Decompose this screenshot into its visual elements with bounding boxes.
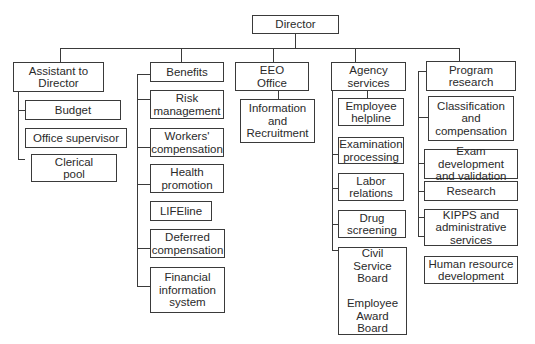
budget-box: Budget — [25, 100, 121, 120]
benefits-box: Benefits — [150, 62, 224, 82]
connector — [137, 286, 151, 287]
connector — [295, 33, 296, 49]
connector — [18, 92, 19, 160]
kipps-box: KIPPS and administrative services — [424, 209, 518, 246]
information-recruitment-box: Information and Recruitment — [240, 99, 315, 143]
assistant-director-box: Assistant to Director — [13, 62, 104, 92]
program-research-box: Program research — [426, 61, 516, 91]
connector — [137, 74, 151, 75]
employee-helpline-box: Employee helpline — [338, 98, 404, 126]
connector — [18, 159, 25, 160]
connector — [332, 89, 333, 250]
labor-relations-box: Labor relations — [338, 173, 404, 201]
deferred-compensation-box: Deferred compensation — [150, 229, 225, 258]
agency-services-box: Agency services — [331, 62, 406, 91]
connector — [60, 48, 459, 49]
connector — [181, 48, 182, 62]
connector — [355, 48, 356, 62]
connector — [418, 71, 419, 236]
connector — [137, 74, 138, 286]
health-promotion-box: Health promotion — [150, 164, 224, 193]
connector — [418, 71, 426, 72]
connector — [137, 147, 151, 148]
exam-development-box: Exam development and validation — [424, 149, 518, 179]
connector — [137, 99, 151, 100]
examination-processing-box: Examination processing — [338, 137, 404, 164]
research-box: Research — [424, 181, 518, 201]
clerical-pool-box: Clerical pool — [31, 154, 117, 182]
workers-compensation-box: Workers' compensation — [150, 128, 224, 157]
office-supervisor-box: Office supervisor — [25, 128, 127, 148]
financial-information-system-box: Financial information system — [150, 267, 225, 313]
connector — [137, 248, 151, 249]
connector — [18, 110, 25, 111]
connector — [273, 48, 274, 62]
connector — [278, 91, 279, 99]
drug-screening-box: Drug screening — [338, 210, 406, 238]
connector — [137, 184, 151, 185]
human-resource-development-box: Human resource development — [424, 256, 518, 284]
civil-service-board-box: Civil Service Board Employee Award Board — [338, 247, 407, 335]
connector — [418, 117, 428, 118]
connector — [60, 48, 61, 62]
eeo-office-box: EEO Office — [235, 62, 309, 91]
connector — [459, 48, 460, 62]
lifeline-box: LIFEline — [150, 201, 212, 221]
classification-compensation-box: Classification and compensation — [428, 96, 514, 141]
risk-management-box: Risk management — [150, 90, 224, 119]
director-box: Director — [252, 15, 339, 34]
